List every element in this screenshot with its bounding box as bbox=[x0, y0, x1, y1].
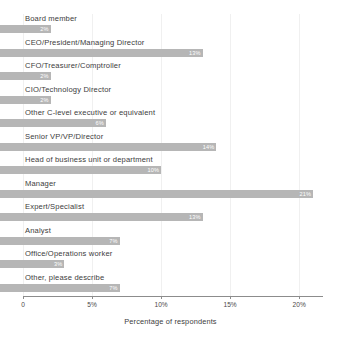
bar-value-label: 6% bbox=[96, 119, 104, 127]
bar-track: 13% bbox=[0, 49, 313, 57]
bar-value-label: 10% bbox=[148, 166, 160, 174]
bar-track: 2% bbox=[0, 25, 313, 33]
bar-group: Head of business unit or department10% bbox=[23, 155, 313, 179]
bar-rect[interactable]: 10% bbox=[0, 166, 161, 174]
x-tick-mark bbox=[299, 296, 300, 299]
bar-category-label: Manager bbox=[25, 179, 56, 189]
x-axis-line bbox=[23, 296, 323, 297]
bar-group: Expert/Specialist13% bbox=[23, 202, 313, 226]
bar-value-label: 14% bbox=[203, 143, 215, 151]
x-tick-mark bbox=[92, 296, 93, 299]
bar-category-label: Office/Operations worker bbox=[25, 249, 113, 259]
bar-value-label: 21% bbox=[299, 190, 311, 198]
bar-track: 13% bbox=[0, 213, 313, 221]
bar-category-label: Board member bbox=[25, 14, 77, 24]
bar-track: 2% bbox=[0, 72, 313, 80]
bar-category-label: Senior VP/VP/Director bbox=[25, 132, 103, 142]
bar-track: 6% bbox=[0, 119, 313, 127]
bar-group: Senior VP/VP/Director14% bbox=[23, 132, 313, 156]
bar-track: 7% bbox=[0, 237, 313, 245]
x-tick-label: 5% bbox=[87, 301, 97, 308]
bar-rect[interactable]: 6% bbox=[0, 119, 106, 127]
bar-rect[interactable]: 7% bbox=[0, 237, 120, 245]
bar-track: 10% bbox=[0, 166, 313, 174]
bar-group: Other C-level executive or equivalent6% bbox=[23, 108, 313, 132]
bar-rect[interactable]: 13% bbox=[0, 49, 203, 57]
bar-rect[interactable]: 2% bbox=[0, 25, 51, 33]
x-axis-title: Percentage of respondents bbox=[0, 317, 341, 326]
bar-track: 21% bbox=[0, 190, 313, 198]
bar-group: CEO/President/Managing Director13% bbox=[23, 38, 313, 62]
x-tick-mark bbox=[230, 296, 231, 299]
bar-group: Manager21% bbox=[23, 179, 313, 203]
bar-value-label: 7% bbox=[109, 237, 117, 245]
x-tick-label: 20% bbox=[293, 301, 306, 308]
x-tick-label: 0 bbox=[21, 301, 25, 308]
x-tick-mark bbox=[23, 296, 24, 299]
bar-value-label: 13% bbox=[189, 213, 201, 221]
plot-area: Board member2%CEO/President/Managing Dir… bbox=[23, 14, 313, 296]
bar-group: CIO/Technology Director2% bbox=[23, 85, 313, 109]
bar-category-label: Head of business unit or department bbox=[25, 155, 153, 165]
x-tick-label: 10% bbox=[154, 301, 167, 308]
bar-category-label: Other C-level executive or equivalent bbox=[25, 108, 155, 118]
bar-value-label: 2% bbox=[40, 25, 48, 33]
bar-category-label: CEO/President/Managing Director bbox=[25, 38, 145, 48]
bar-rect[interactable]: 21% bbox=[0, 190, 313, 198]
bar-rect[interactable]: 13% bbox=[0, 213, 203, 221]
bar-rect[interactable]: 7% bbox=[0, 284, 120, 292]
bar-value-label: 13% bbox=[189, 49, 201, 57]
bar-category-label: CIO/Technology Director bbox=[25, 85, 111, 95]
bar-track: 2% bbox=[0, 96, 313, 104]
bar-group: CFO/Treasurer/Comptroller2% bbox=[23, 61, 313, 85]
bar-value-label: 7% bbox=[109, 284, 117, 292]
bar-group: Analyst7% bbox=[23, 226, 313, 250]
bar-track: 14% bbox=[0, 143, 313, 151]
bar-group: Office/Operations worker3% bbox=[23, 249, 313, 273]
x-tick-label: 15% bbox=[224, 301, 237, 308]
bar-rect[interactable]: 14% bbox=[0, 143, 216, 151]
bar-chart: Board member2%CEO/President/Managing Dir… bbox=[0, 0, 341, 342]
bar-rect[interactable]: 2% bbox=[0, 72, 51, 80]
bar-track: 7% bbox=[0, 284, 313, 292]
bar-category-label: CFO/Treasurer/Comptroller bbox=[25, 61, 121, 71]
bar-category-label: Expert/Specialist bbox=[25, 202, 84, 212]
bar-track: 3% bbox=[0, 260, 313, 268]
bar-group: Board member2% bbox=[23, 14, 313, 38]
bar-value-label: 2% bbox=[40, 72, 48, 80]
bar-rect[interactable]: 2% bbox=[0, 96, 51, 104]
bar-value-label: 2% bbox=[40, 96, 48, 104]
bar-group: Other, please describe7% bbox=[23, 273, 313, 297]
bar-value-label: 3% bbox=[54, 260, 62, 268]
bar-category-label: Analyst bbox=[25, 226, 51, 236]
bar-category-label: Other, please describe bbox=[25, 273, 104, 283]
x-tick-mark bbox=[161, 296, 162, 299]
bar-rect[interactable]: 3% bbox=[0, 260, 64, 268]
